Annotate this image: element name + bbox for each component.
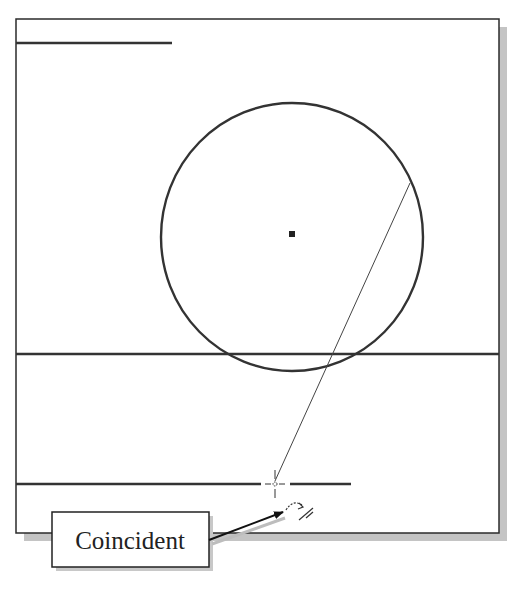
drawing-frame (16, 19, 499, 533)
sketch-canvas[interactable]: Coincident (0, 0, 520, 592)
callout-label: Coincident (75, 527, 185, 554)
circle-center-point[interactable] (289, 231, 295, 237)
